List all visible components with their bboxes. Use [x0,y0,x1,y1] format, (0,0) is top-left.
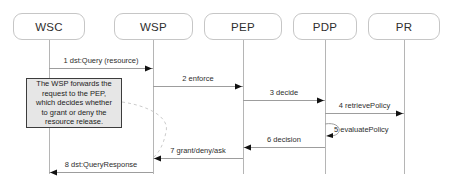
message-3-arrowhead [317,98,324,104]
sequence-diagram: 1 dst:Query (resource)2 enforce3 decide4… [0,0,454,185]
actor-wsc: WSC [13,13,85,40]
message-4-label: 4 retrievePolicy [339,101,390,111]
message-5-arrowhead [326,133,333,138]
note-line-1: The WSP forwards the [36,79,111,88]
note-line-5: resource release. [45,117,103,126]
actor-label-pdp: PDP [313,21,338,33]
message-8-arrowhead [50,170,57,176]
actor-pdp: PDP [293,13,357,40]
actor-label-pr: PR [396,21,413,33]
note-line-4: to grant or deny the [41,108,106,117]
message-2-arrowhead [235,84,242,90]
note-line-2: request to the PEP, [42,89,106,98]
actor-label-pep: PEP [231,21,255,33]
message-5-label: 5 evaluatePolicy [334,125,389,135]
message-8-label: 8 dst:QueryResponse [65,160,138,170]
actor-pep: PEP [204,13,282,40]
actor-wsp: WSP [114,13,193,40]
message-1-arrowhead [145,66,152,72]
message-3-label: 3 decide [270,88,298,98]
message-6-arrowhead [244,145,251,151]
actor-pr: PR [368,13,440,40]
message-2-label: 2 enforce [182,74,213,84]
actor-label-wsc: WSC [35,21,63,33]
message-1-label: 1 dst:Query (resource) [63,56,138,66]
note-box: The WSP forwards therequest to the PEP,w… [26,78,122,128]
note-line-3: which decides whether [36,98,112,107]
message-6-label: 6 decision [267,135,301,145]
actor-label-wsp: WSP [140,21,167,33]
note-anchor-curve [122,102,167,157]
message-7-label: 7 grant/deny/ask [170,146,225,156]
message-4-arrowhead [396,111,403,117]
